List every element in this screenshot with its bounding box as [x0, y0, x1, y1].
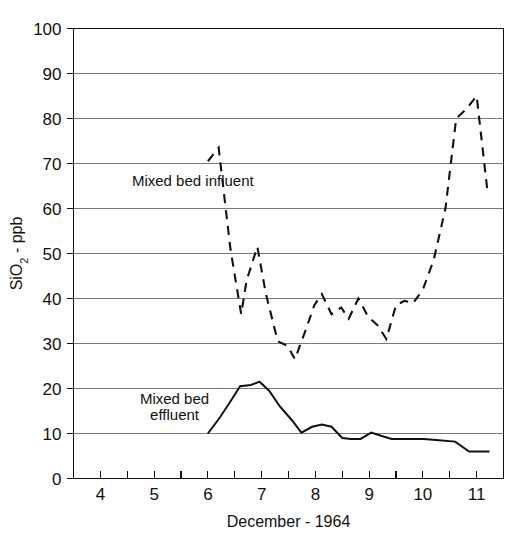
chart-container: 4567891011 0102030405060708090100 Mixed … — [0, 0, 524, 545]
y-tick-label-20: 20 — [43, 380, 62, 399]
y-tick-label-0: 0 — [52, 470, 61, 489]
y-tick-label-30: 30 — [43, 335, 62, 354]
annotation-0: Mixed bed influent — [132, 172, 255, 189]
x-tick-label-5: 5 — [149, 485, 158, 504]
x-axis-title: December - 1964 — [227, 513, 351, 530]
y-tick-label-40: 40 — [43, 290, 62, 309]
y-tick-label-10: 10 — [43, 425, 62, 444]
x-tick-label-7: 7 — [257, 485, 266, 504]
y-tick-label-80: 80 — [43, 110, 62, 129]
y-tick-label-70: 70 — [43, 155, 62, 174]
x-tick-label-6: 6 — [203, 485, 212, 504]
y-tick-label-60: 60 — [43, 200, 62, 219]
y-tick-label-50: 50 — [43, 245, 62, 264]
x-tick-label-9: 9 — [364, 485, 373, 504]
annotation-2: effluent — [150, 406, 200, 423]
x-tick-label-4: 4 — [96, 485, 105, 504]
y-tick-label-90: 90 — [43, 65, 62, 84]
x-tick-label-8: 8 — [311, 485, 320, 504]
x-tick-label-10: 10 — [413, 485, 432, 504]
silica-line-chart: 4567891011 0102030405060708090100 Mixed … — [0, 0, 524, 545]
annotation-1: Mixed bed — [140, 390, 209, 407]
chart-background — [0, 0, 524, 545]
y-tick-label-100: 100 — [33, 20, 61, 39]
y-axis-title-prefix: SiO — [8, 264, 25, 291]
y-axis-title-suffix: - ppb — [8, 217, 25, 258]
x-tick-label-11: 11 — [468, 485, 486, 504]
